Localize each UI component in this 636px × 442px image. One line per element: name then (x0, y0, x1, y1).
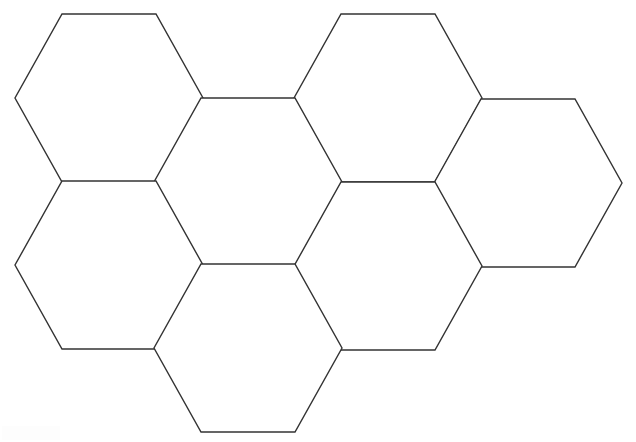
drawing-canvas (0, 0, 636, 442)
hexagon-grid (0, 0, 636, 442)
